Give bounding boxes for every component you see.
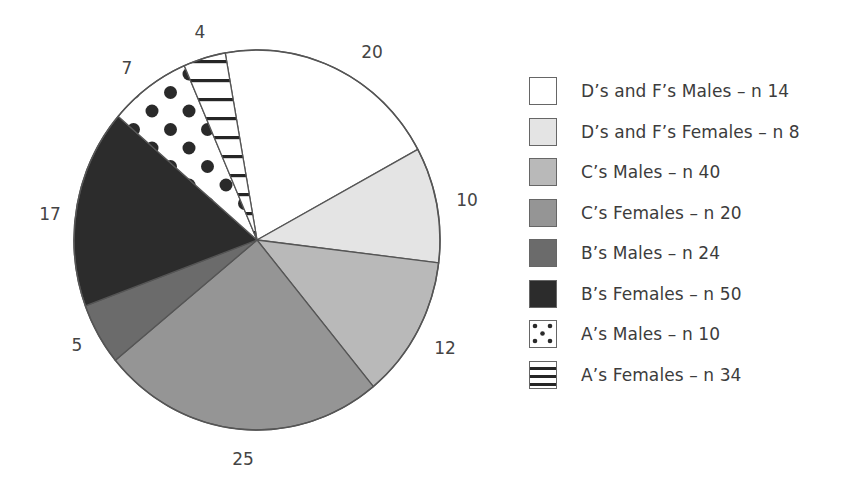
slice-value-label: 4 — [195, 22, 206, 42]
legend-item-c-males: C’s Males – n 40 — [529, 152, 800, 193]
slice-value-label: 5 — [72, 335, 83, 355]
dots-icon — [530, 321, 555, 346]
slice-value-label: 12 — [434, 338, 456, 358]
legend-swatch-dark-gray — [529, 239, 557, 267]
legend-label: B’s Males – n 24 — [581, 243, 720, 263]
legend-swatch-mid-light-gray — [529, 158, 557, 186]
legend-label: A’s Females – n 34 — [581, 365, 742, 385]
legend-item-b-females: B’s Females – n 50 — [529, 274, 800, 315]
legend-item-a-females: A’s Females – n 34 — [529, 355, 800, 396]
slice-value-label: 10 — [456, 190, 478, 210]
legend-swatch-hlines — [529, 361, 557, 389]
legend-label: D’s and F’s Females – n 8 — [581, 122, 800, 142]
legend-item-df-males: D’s and F’s Males – n 14 — [529, 71, 800, 112]
slice-value-label: 7 — [122, 58, 133, 78]
legend-item-df-females: D’s and F’s Females – n 8 — [529, 112, 800, 153]
legend-swatch-white — [529, 77, 557, 105]
legend-label: D’s and F’s Males – n 14 — [581, 81, 789, 101]
legend-label: C’s Males – n 40 — [581, 162, 720, 182]
legend-swatch-light-gray — [529, 118, 557, 146]
legend-label: B’s Females – n 50 — [581, 284, 742, 304]
legend-item-b-males: B’s Males – n 24 — [529, 233, 800, 274]
pie-slices — [74, 50, 440, 430]
legend-label: A’s Males – n 10 — [581, 324, 720, 344]
slice-value-label: 25 — [232, 449, 254, 469]
legend-item-a-males: A’s Males – n 10 — [529, 314, 800, 355]
legend-swatch-near-black — [529, 280, 557, 308]
slice-value-label: 20 — [361, 42, 383, 62]
legend-swatch-mid-gray — [529, 199, 557, 227]
legend: D’s and F’s Males – n 14 D’s and F’s Fem… — [529, 71, 800, 395]
legend-swatch-dots — [529, 320, 557, 348]
slice-value-label: 17 — [39, 204, 61, 224]
legend-label: C’s Females – n 20 — [581, 203, 742, 223]
legend-item-c-females: C’s Females – n 20 — [529, 193, 800, 234]
